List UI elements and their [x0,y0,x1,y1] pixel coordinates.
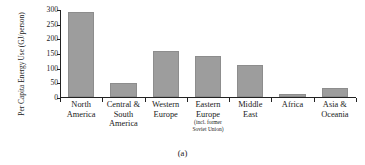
x-axis-category-label-line: East [223,110,277,120]
bar [110,83,136,97]
y-axis-tick-labels: 050100150200250300 [36,10,58,98]
x-axis-category-label: Asia &Oceania [308,100,362,119]
x-axis-category-label-line: Oceania [308,110,362,120]
bar [195,56,221,97]
bar [153,51,179,97]
y-axis-title-line-1: Per Capita Energy [18,62,27,116]
bar [279,94,305,97]
bar-chart-figure: Per Capita Energy Use (GJ/person) 050100… [0,0,365,165]
bar [68,12,94,97]
x-axis-category-label-line: Asia & [308,100,362,110]
y-axis-title-line-2: Use (GJ/person) [18,12,27,60]
x-axis-category-labels: NorthAmericaCentral &SouthAmericaWestern… [60,100,356,150]
bar [322,88,348,97]
figure-caption: (a) [0,148,365,158]
plot-area [60,10,356,98]
bar-series [60,10,356,97]
x-axis-category-sublabel-line: Soviet Union) [181,126,235,132]
bar [237,65,263,97]
x-axis-category-label-line: America [96,119,150,129]
y-axis-title: Per Capita Energy Use (GJ/person) [10,16,34,112]
